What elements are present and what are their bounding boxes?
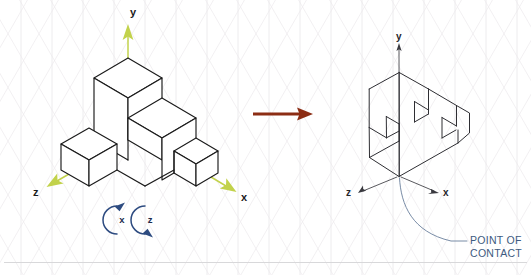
sketch-inner-left-diag [387,131,400,138]
sketch-left-notch-upper [386,117,399,125]
right-sketch-figure: y z x [0,0,531,275]
sketch-bottom-right-edge [399,143,458,177]
callout-line-1: POINT OF [470,234,522,247]
axis-z-label-right: z [346,187,351,198]
sketch-axis-z [358,177,397,193]
sketch-left-notch-top [369,128,386,138]
axis-y-label-right: y [396,31,402,42]
sketch-axis-x [401,177,439,194]
bottom-divider [4,262,527,263]
sketch-bottom-left-edge [370,158,400,177]
sketch-inner-right-diag [415,114,429,122]
sketch-crest-right [399,73,428,90]
point-of-contact-callout: POINT OF CONTACT [470,234,522,260]
diagram-canvas: y z x [0,0,531,275]
sketch-step1-tread [415,102,429,111]
callout-line-2: CONTACT [470,247,522,260]
callout-leader-line [400,178,468,241]
sketch-step2-tread [442,118,457,127]
sketch-body-left-fold [370,141,400,158]
sketch-inner-right-diag2 [442,130,456,138]
sketch-crest-left [369,73,399,90]
sketch-step2-diag [429,89,457,106]
axis-x-label-right: x [443,187,449,198]
